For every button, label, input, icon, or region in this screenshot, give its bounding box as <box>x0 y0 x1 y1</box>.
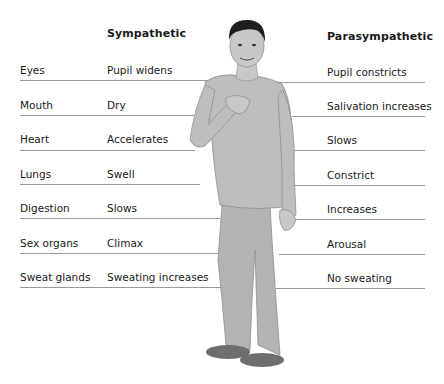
parasympathetic-effect: Constrict <box>327 169 374 181</box>
sympathetic-effect: Accelerates <box>107 133 168 145</box>
parasympathetic-effect: Arousal <box>327 238 366 250</box>
sympathetic-effect: Swell <box>107 168 135 180</box>
parasympathetic-effect: No sweating <box>327 272 392 284</box>
sympathetic-effect: Pupil widens <box>107 64 172 76</box>
standing-man-illustration <box>0 0 444 384</box>
organ-label: Sweat glands <box>20 271 90 283</box>
organ-label: Mouth <box>20 99 53 111</box>
parasympathetic-effect: Pupil constricts <box>327 66 407 78</box>
organ-label: Sex organs <box>20 237 78 249</box>
parasympathetic-effect: Increases <box>327 203 377 215</box>
parasympathetic-effect: Salivation increases <box>327 100 432 112</box>
sympathetic-effect: Dry <box>107 99 126 111</box>
sympathetic-effect: Climax <box>107 237 143 249</box>
organ-label: Digestion <box>20 202 70 214</box>
organ-label: Eyes <box>20 64 45 76</box>
organ-label: Lungs <box>20 168 51 180</box>
parasympathetic-effect: Slows <box>327 134 357 146</box>
sympathetic-effect: Sweating increases <box>107 271 209 283</box>
organ-label: Heart <box>20 133 49 145</box>
sympathetic-effect: Slows <box>107 202 137 214</box>
